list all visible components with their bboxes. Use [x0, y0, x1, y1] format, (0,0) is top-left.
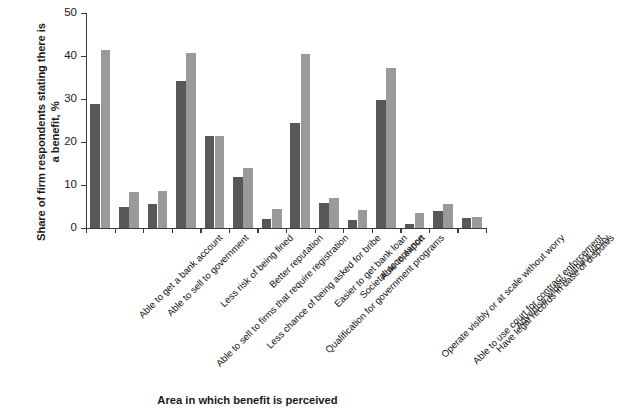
x-tick: [200, 228, 201, 233]
bar: [119, 207, 129, 228]
bar: [443, 204, 453, 228]
bar: [233, 177, 243, 228]
bar-group: [119, 13, 139, 228]
bar: [386, 68, 396, 228]
bar-group: [319, 13, 339, 228]
bar-group: [290, 13, 310, 228]
x-tick: [486, 228, 487, 233]
y-tick-label: 30: [64, 93, 77, 105]
bar: [329, 198, 339, 228]
bar: [472, 217, 482, 228]
x-tick: [257, 228, 258, 233]
bar: [129, 192, 139, 228]
x-tick: [229, 228, 230, 233]
y-tick: [81, 56, 86, 57]
bar-group: [148, 13, 168, 228]
y-tick-label: 50: [64, 7, 77, 19]
y-tick: [81, 185, 86, 186]
bar: [405, 224, 415, 228]
category-label: Advertise widely without worry: [515, 232, 613, 330]
x-tick: [115, 228, 116, 233]
bar: [186, 53, 196, 228]
x-tick: [172, 228, 173, 233]
y-axis-line: [86, 13, 87, 228]
bar: [215, 136, 225, 228]
bar-group: [90, 13, 110, 228]
bar: [433, 211, 443, 228]
bar-group: [405, 13, 425, 228]
bar: [301, 54, 311, 228]
bar: [348, 220, 358, 228]
y-tick-label: 10: [64, 179, 77, 191]
y-tick-label: 0: [71, 222, 77, 234]
y-tick: [81, 99, 86, 100]
bar: [358, 210, 368, 228]
bar: [205, 136, 215, 228]
bar: [176, 81, 186, 228]
bar: [290, 123, 300, 228]
bar-group: [462, 13, 482, 228]
bar: [243, 168, 253, 228]
y-tick-label: 40: [64, 50, 77, 62]
bar: [376, 100, 386, 228]
x-tick: [143, 228, 144, 233]
x-axis-title: Area in which benefit is perceived: [0, 394, 495, 406]
bar: [262, 219, 272, 228]
plot-area: 01020304050: [86, 13, 486, 228]
bar: [319, 203, 329, 228]
y-tick: [81, 13, 86, 14]
bar-group: [176, 13, 196, 228]
bar: [415, 213, 425, 228]
bar-group: [262, 13, 282, 228]
bar: [272, 209, 282, 228]
bar-group: [376, 13, 396, 228]
y-axis-title: Share of firm respondents stating there …: [34, 22, 62, 242]
y-tick-label: 20: [64, 136, 77, 148]
bar-group: [433, 13, 453, 228]
bar: [101, 50, 111, 228]
bar: [148, 204, 158, 228]
bar-group: [233, 13, 253, 228]
x-tick: [86, 228, 87, 233]
bar-group: [348, 13, 368, 228]
bar: [90, 104, 100, 228]
x-tick: [429, 228, 430, 233]
x-tick: [457, 228, 458, 233]
bar: [462, 218, 472, 228]
bar: [158, 191, 168, 228]
bar-group: [205, 13, 225, 228]
y-tick: [81, 142, 86, 143]
